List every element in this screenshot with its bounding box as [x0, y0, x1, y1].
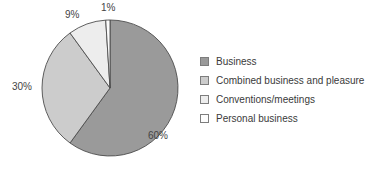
- legend-item-business: Business: [200, 56, 364, 67]
- legend-item-combined-business-and-pleasure: Combined business and pleasure: [200, 75, 364, 86]
- pie-chart-figure: 60% 30% 9% 1% Business Combined business…: [0, 0, 382, 175]
- chart-legend: Business Combined business and pleasure …: [200, 56, 364, 124]
- slice-value-label-business: 60%: [148, 130, 168, 141]
- legend-swatch-conventions-meetings: [200, 95, 209, 104]
- legend-swatch-business: [200, 57, 209, 66]
- legend-swatch-personal-business: [200, 114, 209, 123]
- slice-value-label-conventions: 9%: [65, 9, 79, 20]
- legend-swatch-combined-business-and-pleasure: [200, 76, 209, 85]
- legend-item-conventions-meetings: Conventions/meetings: [200, 94, 364, 105]
- slice-value-label-personal: 1%: [101, 2, 115, 13]
- slice-value-label-combined: 30%: [12, 81, 32, 92]
- legend-label-business: Business: [216, 56, 257, 67]
- legend-item-personal-business: Personal business: [200, 113, 364, 124]
- legend-label-conventions-meetings: Conventions/meetings: [216, 94, 315, 105]
- legend-label-combined-business-and-pleasure: Combined business and pleasure: [216, 75, 364, 86]
- legend-label-personal-business: Personal business: [216, 113, 298, 124]
